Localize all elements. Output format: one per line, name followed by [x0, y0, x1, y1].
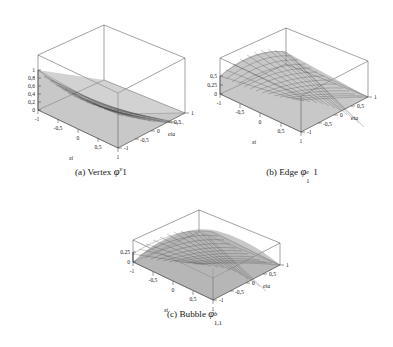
y-tick: 0,5 — [269, 271, 276, 277]
x-tick: -0,5 — [236, 109, 245, 115]
y-tick: 1 — [374, 94, 377, 100]
surface-mesh-bubble — [133, 229, 280, 300]
surface-plot-edge: 0,5 0,25 0 -1 -0,5 0 0,5 1 xi — [198, 14, 386, 164]
y-tick: -1 — [124, 145, 129, 151]
y-tick: 0,5 — [174, 119, 181, 125]
x-tick: 0,5 — [190, 296, 197, 302]
x-tick: 0 — [77, 135, 80, 141]
x-tick: -1 — [217, 100, 222, 106]
caption-text: (a) Vertex — [75, 167, 111, 177]
x-tick: -0,5 — [149, 277, 158, 283]
y-tick: -1 — [219, 297, 224, 303]
surface-plot-vertex: 1 0,8 0,6 0,4 0,2 0 -1 -0,5 0 — [8, 14, 194, 164]
z-tick: 0 — [127, 259, 130, 265]
y-axis-label: eta — [263, 283, 270, 289]
figure-panel-vertex: 1 0,8 0,6 0,4 0,2 0 -1 -0,5 0 — [8, 14, 194, 182]
figure-caption-vertex: (a) Vertex φv1 — [8, 166, 194, 177]
y-tick: 0 — [340, 112, 343, 118]
y-axis-label: eta — [168, 131, 175, 137]
y-axis-label: eta — [351, 115, 358, 121]
y-tick: 1 — [191, 110, 194, 116]
z-tick: 0 — [32, 107, 35, 113]
z-tick: 0,6 — [28, 83, 35, 89]
caption-superscript: b — [214, 310, 217, 317]
x-axis-label: xi — [251, 139, 257, 145]
y-tick: 0,5 — [357, 103, 364, 109]
z-tick: 0,4 — [28, 91, 35, 97]
x-tick: 0,5 — [278, 128, 285, 134]
y-tick: -0,5 — [235, 289, 244, 295]
y-tick: 0 — [157, 128, 160, 134]
z-tick: 0,8 — [28, 75, 35, 81]
y-tick: -0,5 — [140, 137, 149, 143]
plot-area-bubble: 0,25 0 -1 -0,5 0 0,5 1 xi — [100, 192, 292, 342]
caption-subscript: 1 — [306, 177, 309, 184]
x-axis-label: xi — [68, 155, 74, 161]
caption-text: (c) Bubble — [167, 309, 206, 319]
y-tick: 1 — [286, 262, 289, 268]
caption-subscript: 1,1 — [214, 319, 222, 326]
x-tick: 1 — [117, 154, 120, 160]
plot-area-vertex: 1 0,8 0,6 0,4 0,2 0 -1 -0,5 0 — [8, 14, 194, 182]
y-tick: -1 — [307, 129, 312, 135]
y-tick: 0 — [252, 280, 255, 286]
x-tick: -0,5 — [54, 125, 63, 131]
y-tick: -0,5 — [323, 121, 332, 127]
plot-area-edge: 0,5 0,25 0 -1 -0,5 0 0,5 1 xi — [198, 14, 386, 182]
z-tick: 0,25 — [207, 82, 217, 88]
figure-panel-edge: 0,5 0,25 0 -1 -0,5 0 0,5 1 xi — [198, 14, 386, 182]
x-tick: -1 — [35, 116, 40, 122]
z-tick: 0,2 — [28, 99, 35, 105]
x-tick: 1 — [300, 138, 303, 144]
figure-panel-bubble: 0,25 0 -1 -0,5 0 0,5 1 xi — [100, 192, 292, 342]
surface-mesh-vertex — [38, 70, 185, 148]
z-tick: 0,5 — [210, 73, 217, 79]
surface-plot-bubble: 0,25 0 -1 -0,5 0 0,5 1 xi — [100, 192, 292, 322]
x-tick: 0 — [259, 119, 262, 125]
caption-trailing: 1 — [313, 167, 318, 177]
caption-superscript: e — [306, 168, 309, 175]
x-tick: 0 — [172, 287, 175, 293]
z-tick: 0,25 — [120, 249, 130, 255]
caption-trailing: 1 — [122, 167, 127, 177]
surface-mesh-edge — [220, 49, 368, 132]
x-tick: 0,5 — [95, 144, 102, 150]
z-tick: 0 — [214, 91, 217, 97]
figure-caption-bubble: (c) Bubble φb1,1 — [100, 308, 292, 319]
caption-text: (b) Edge — [266, 167, 298, 177]
x-tick: -1 — [130, 268, 135, 274]
z-tick: 1 — [32, 67, 35, 73]
figure-caption-edge: (b) Edge φe11 — [198, 166, 386, 177]
